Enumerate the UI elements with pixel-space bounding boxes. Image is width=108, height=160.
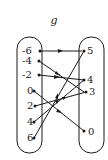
domain-label: 0 xyxy=(27,86,33,96)
domain-dots xyxy=(33,50,42,140)
domain-label: 6 xyxy=(27,133,33,143)
arrow-m4-3 xyxy=(39,61,84,92)
domain-label: -2 xyxy=(22,70,32,80)
range-label: 0 xyxy=(88,127,94,137)
arrow-m2-4 xyxy=(39,75,84,80)
range-label: 4 xyxy=(87,75,93,85)
arrow-2-3 xyxy=(35,92,86,106)
domain-label: 4 xyxy=(27,117,33,127)
range-label: 5 xyxy=(87,46,93,56)
range-label: 3 xyxy=(89,87,95,97)
domain-label: 2 xyxy=(27,101,33,111)
domain-label: -4 xyxy=(22,56,32,66)
